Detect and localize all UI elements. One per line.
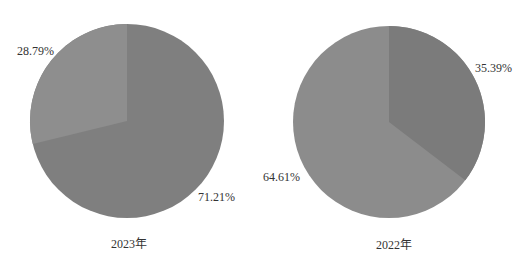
pie-2023-graphic (0, 0, 261, 262)
caption-2023: 2023年 (111, 234, 147, 252)
caption-2022: 2022年 (376, 235, 412, 253)
pie-chart-2022: 35.39% 64.61% 2022年 (261, 0, 523, 262)
label-2023-small: 28.79% (17, 44, 54, 59)
pie-2022-graphic (261, 0, 523, 262)
pie-chart-2023: 28.79% 71.21% 2023年 (0, 0, 261, 262)
label-2023-large: 71.21% (198, 190, 235, 205)
label-2022-large: 64.61% (263, 170, 300, 185)
label-2022-small: 35.39% (475, 61, 512, 76)
